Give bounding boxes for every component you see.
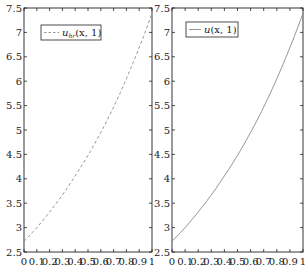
x-tick-label: 0.9	[131, 256, 147, 267]
y-tick-label: 5	[164, 125, 170, 136]
right-plot-panel: 00.10.20.30.40.50.60.70.80.912.533.544.5…	[154, 3, 306, 268]
left-legend: uhr(x, 1)	[41, 25, 101, 40]
y-tick-label: 7	[16, 27, 22, 38]
left-plot-panel: 00.10.20.30.40.50.60.70.80.912.533.544.5…	[6, 3, 155, 268]
y-tick-label: 6	[16, 76, 22, 87]
right-legend: u(x, 1)	[186, 22, 238, 37]
x-tick-label: 1	[300, 256, 306, 267]
y-tick-label: 4.5	[6, 149, 22, 160]
y-tick-label: 7.5	[154, 3, 170, 14]
y-tick-label: 5	[16, 125, 22, 136]
y-tick-label: 3.5	[6, 198, 22, 209]
x-tick-label: 0	[169, 256, 175, 267]
y-tick-label: 2.5	[154, 247, 170, 258]
plot-frame	[24, 8, 152, 252]
y-tick-label: 7	[164, 27, 170, 38]
y-tick-label: 6.5	[6, 51, 22, 62]
y-tick-label: 5.5	[6, 100, 22, 111]
y-tick-label: 4	[16, 173, 22, 184]
plot-frame	[172, 8, 303, 252]
x-tick-label: 1	[149, 256, 155, 267]
y-tick-label: 3	[164, 222, 170, 233]
dashed-curve	[24, 13, 152, 241]
y-tick-label: 2.5	[6, 247, 22, 258]
y-tick-label: 4.5	[154, 149, 170, 160]
y-tick-label: 3.5	[154, 198, 170, 209]
y-tick-label: 6.5	[154, 51, 170, 62]
x-tick-label: 0	[21, 256, 27, 267]
chart-canvas: 00.10.20.30.40.50.60.70.80.912.533.544.5…	[0, 0, 308, 271]
y-tick-label: 6	[164, 76, 170, 87]
y-tick-label: 3	[16, 222, 22, 233]
solid-curve	[172, 13, 303, 241]
y-tick-label: 7.5	[6, 3, 22, 14]
left-legend-label: uhr(x, 1)	[62, 27, 101, 39]
y-tick-label: 4	[164, 173, 170, 184]
x-tick-label: 0.9	[282, 256, 298, 267]
y-tick-label: 5.5	[154, 100, 170, 111]
right-legend-label: u(x, 1)	[204, 24, 237, 35]
